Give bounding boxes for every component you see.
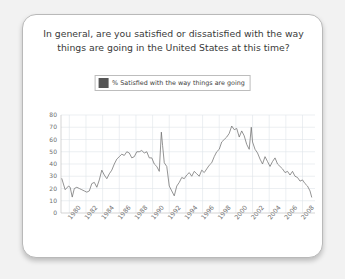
y-axis-tick-label: 20 — [49, 185, 57, 192]
x-axis-tick-label: 2006 — [283, 204, 299, 221]
y-axis-ticks: 01020304050607080 — [49, 111, 57, 216]
x-axis-tick-label: 1986 — [116, 204, 132, 221]
x-axis-tick-label: 1992 — [166, 204, 182, 221]
legend-series-label: % Satisfied with the way things are goin… — [112, 79, 245, 87]
x-axis-ticks: 1980198219841986198819901992199419961998… — [66, 204, 315, 221]
chart-title-line-2: things are going in the United States at… — [33, 41, 314, 55]
y-axis-tick-label: 70 — [49, 123, 57, 130]
series-line-satisfied — [62, 126, 312, 197]
y-axis-tick-label: 50 — [49, 148, 57, 155]
x-axis-tick-label: 1990 — [150, 204, 166, 221]
plot-area: 01020304050607080 1980198219841986198819… — [23, 107, 323, 257]
y-axis-tick-label: 10 — [49, 197, 57, 204]
square-swatch-icon — [98, 78, 108, 88]
x-axis-tick-label: 2008 — [299, 204, 315, 221]
x-axis-tick-label: 2000 — [233, 204, 249, 221]
chart-legend: % Satisfied with the way things are goin… — [94, 75, 251, 91]
x-axis-tick-label: 1996 — [199, 204, 215, 221]
x-axis-tick-label: 1984 — [100, 204, 116, 221]
chart-title-line-1: In general, are you satisfied or dissati… — [33, 27, 314, 41]
x-axis-tick-label: 2004 — [266, 204, 282, 221]
y-axis-tick-label: 30 — [49, 172, 57, 179]
x-axis-tick-label: 1982 — [83, 204, 99, 221]
y-axis-tick-label: 60 — [49, 136, 57, 143]
y-axis-tick-label: 80 — [49, 111, 57, 118]
chart-panel: In general, are you satisfied or dissati… — [22, 14, 323, 258]
gridlines — [61, 115, 315, 213]
chart-title: In general, are you satisfied or dissati… — [33, 27, 314, 54]
x-axis-tick-label: 1998 — [216, 204, 232, 221]
y-axis-tick-label: 0 — [53, 209, 57, 216]
x-axis-tick-label: 1988 — [133, 204, 149, 221]
y-axis-tick-label: 40 — [49, 160, 57, 167]
x-axis-tick-label: 2002 — [249, 204, 265, 221]
line-chart-svg: 01020304050607080 1980198219841986198819… — [23, 107, 323, 257]
x-axis-tick-label: 1994 — [183, 204, 199, 221]
x-axis-tick-label: 1980 — [66, 204, 82, 221]
